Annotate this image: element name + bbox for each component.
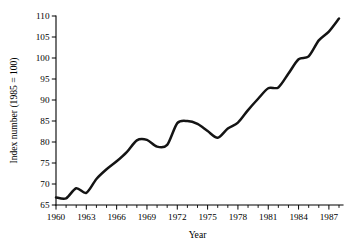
x-tick-label-1966: 1966 <box>107 212 126 222</box>
y-tick-label-85: 85 <box>40 116 50 126</box>
y-tick-label-80: 80 <box>40 137 50 147</box>
x-tick-label-1984: 1984 <box>289 212 308 222</box>
x-tick-label-1987: 1987 <box>320 212 339 222</box>
x-tick-label-1969: 1969 <box>138 212 157 222</box>
x-tick-label-1978: 1978 <box>229 212 248 222</box>
x-tick-label-1981: 1981 <box>259 212 278 222</box>
y-tick-label-100: 100 <box>36 53 50 63</box>
x-tick-label-1960: 1960 <box>47 212 66 222</box>
y-tick-label-105: 105 <box>36 32 50 42</box>
y-tick-label-95: 95 <box>40 74 50 84</box>
y-tick-label-90: 90 <box>40 95 50 105</box>
line-chart: 65707580859095100105110 1960196319661969… <box>0 0 352 248</box>
x-tick-label-1975: 1975 <box>198 212 217 222</box>
x-axis-title: Year <box>189 229 207 240</box>
y-axis-title: Index number (1985 = 100) <box>8 57 20 163</box>
y-tick-label-75: 75 <box>40 158 50 168</box>
y-tick-label-110: 110 <box>36 11 50 21</box>
x-tick-label-1972: 1972 <box>168 212 187 222</box>
y-tick-label-65: 65 <box>40 200 50 210</box>
x-tick-label-1963: 1963 <box>77 212 96 222</box>
chart-figure: 65707580859095100105110 1960196319661969… <box>0 0 352 248</box>
y-tick-label-70: 70 <box>40 179 50 189</box>
